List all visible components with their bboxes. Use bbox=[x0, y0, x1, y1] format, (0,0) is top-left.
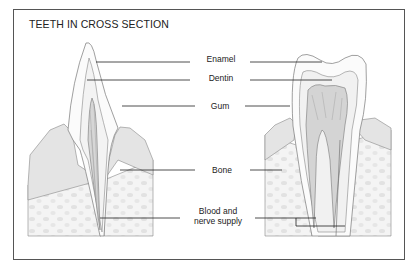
molar-tooth bbox=[265, 54, 391, 236]
label-enamel: Enamel bbox=[207, 54, 236, 64]
label-blood-line1: Blood and bbox=[199, 206, 237, 216]
incisor-tooth bbox=[28, 43, 153, 236]
label-dentin: Dentin bbox=[209, 73, 234, 83]
label-bone: Bone bbox=[212, 165, 232, 175]
label-blood-line2: nerve supply bbox=[194, 216, 242, 226]
label-gum: Gum bbox=[211, 101, 229, 111]
